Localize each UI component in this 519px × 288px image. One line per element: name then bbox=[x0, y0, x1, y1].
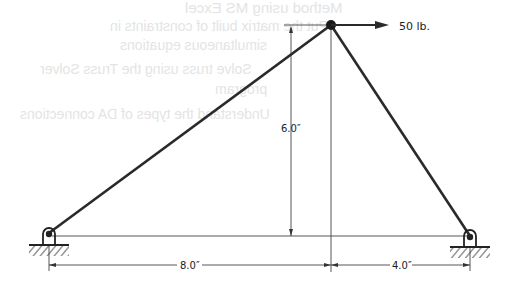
truss-diagram: Method using MS Excel Put the matrix bui… bbox=[0, 0, 519, 288]
load-arrow bbox=[331, 21, 389, 29]
height-label: 6.0″ bbox=[281, 123, 301, 134]
right-diagonal-member bbox=[331, 25, 470, 236]
right-span-label: 4.0″ bbox=[392, 260, 412, 271]
left-span-label: 8.0″ bbox=[180, 260, 200, 271]
load-label: 50 lb. bbox=[399, 20, 430, 33]
